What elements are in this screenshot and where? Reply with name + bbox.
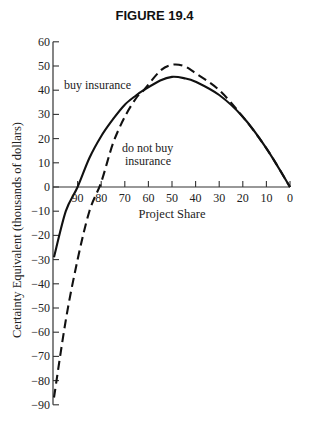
y-tick-label: 50 [38,59,50,73]
y-tick-label: 30 [38,107,50,121]
y-tick-label: −30 [31,253,50,267]
y-tick-label: 60 [38,35,50,49]
y-tick-label: 20 [38,132,50,146]
curves [54,64,290,397]
y-axis-title: Certainty Equivalent (thousands of dolla… [10,122,24,338]
y-tick-label: −10 [31,204,50,218]
y-tick-label: −80 [31,374,50,388]
x-tick-label: 80 [95,191,107,205]
y-tick-label: −60 [31,325,50,339]
chart-plot: 6050403020100−10−20−30−40−50−60−70−80−90… [0,0,309,432]
y-tick-label: −20 [31,228,50,242]
do-not-buy-insurance-curve [54,64,290,397]
x-tick-label: 20 [237,191,249,205]
x-tick-label: 0 [287,191,293,205]
annotation-do-not-buy-line2: insurance [125,154,171,168]
x-tick-label: 10 [260,191,272,205]
annotation-buy-insurance: buy insurance [64,78,131,92]
x-tick-label: 70 [119,191,131,205]
y-tick-label: 10 [38,156,50,170]
x-tick-label: 50 [166,191,178,205]
buy-insurance-curve [54,77,290,257]
x-axis-title: Project Share [139,207,206,221]
y-tick-label: 0 [44,180,50,194]
y-tick-label: −90 [31,398,50,412]
y-tick-label: −50 [31,301,50,315]
x-tick-label: 30 [213,191,225,205]
x-tick-label: 40 [190,191,202,205]
y-tick-label: 40 [38,83,50,97]
x-tick-label: 60 [142,191,154,205]
y-tick-label: −40 [31,277,50,291]
annotation-do-not-buy-line1: do not buy [122,141,173,155]
y-tick-label: −70 [31,349,50,363]
